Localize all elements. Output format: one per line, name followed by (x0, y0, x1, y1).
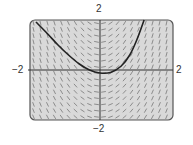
y-axis-max-label: 2 (96, 4, 102, 14)
x-axis-min-label: −2 (12, 65, 23, 75)
y-axis-min-label: −2 (93, 124, 104, 134)
x-axis-max-label: 2 (176, 65, 182, 75)
